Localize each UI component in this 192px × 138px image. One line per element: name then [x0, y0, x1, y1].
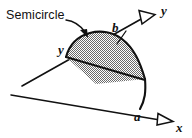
edge-to-point-a [140, 79, 145, 109]
label-y-inner: y [58, 43, 64, 56]
label-b: b [112, 21, 119, 34]
x-axis-label: x [176, 121, 183, 134]
x-axis-arrowhead-icon [157, 114, 173, 126]
semicircle-callout-label: Semicircle [6, 9, 65, 22]
figure-container: Semicircle b y y a x [0, 0, 192, 138]
label-a: a [134, 110, 141, 123]
y-axis-arrowhead-icon [139, 11, 155, 25]
y-axis-label: y [161, 4, 167, 17]
x-axis-group [11, 95, 173, 125]
semicircle-region [66, 32, 145, 84]
